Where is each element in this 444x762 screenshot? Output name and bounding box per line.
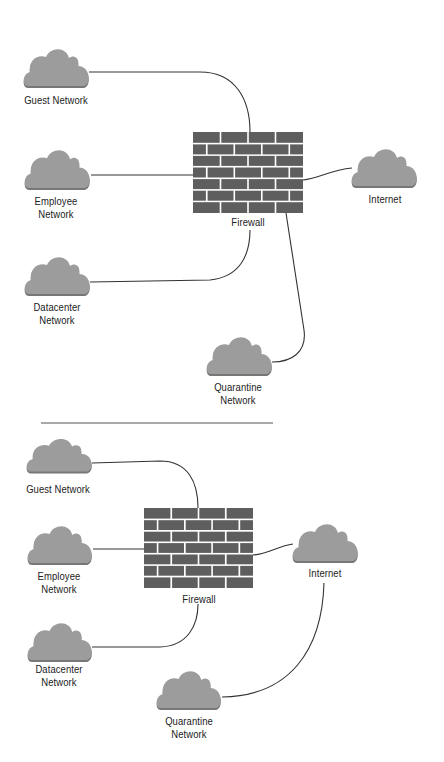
internet-network-label: Internet — [369, 193, 402, 206]
connection-internet-to-quarantine — [222, 583, 324, 697]
guest-network-label: Guest Network — [26, 483, 90, 496]
cloud-icon-datacenter — [28, 623, 92, 662]
quarantine-network-label: QuarantineNetwork — [165, 715, 213, 741]
connection-firewall-to-internet — [253, 544, 293, 555]
label-line: Datacenter — [33, 301, 80, 314]
label-line: Internet — [309, 567, 342, 580]
cloud-icon-quarantine — [157, 671, 221, 710]
firewall-label: Firewall — [231, 216, 264, 229]
quarantine-network-label: QuarantineNetwork — [214, 381, 262, 407]
label-line: Network — [35, 208, 78, 221]
cloud-icon-employee — [25, 150, 90, 190]
cloud-icon-employee — [28, 526, 92, 565]
connection-datacenter-to-firewall — [92, 604, 198, 647]
firewall-icon — [193, 132, 303, 213]
connection-firewall-to-quarantine — [272, 213, 304, 362]
label-line: Datacenter — [35, 663, 82, 676]
label-line: Guest Network — [26, 483, 90, 496]
connection-firewall-to-internet — [303, 168, 352, 180]
cloud-icon-quarantine — [207, 337, 272, 376]
internet-network-label: Internet — [309, 567, 342, 580]
guest-network-label: Guest Network — [24, 94, 88, 107]
cloud-icon-datacenter — [25, 257, 90, 296]
label-line: Quarantine — [214, 381, 262, 394]
label-line: Network — [35, 676, 82, 689]
cloud-icon-internet — [352, 149, 417, 188]
label-line: Network — [165, 728, 213, 741]
datacenter-network-label: DatacenterNetwork — [33, 301, 80, 327]
cloud-icon-internet — [293, 524, 358, 563]
label-line: Network — [33, 314, 80, 327]
connection-guest-to-firewall — [89, 72, 250, 132]
datacenter-network-label: DatacenterNetwork — [35, 663, 82, 689]
connection-datacenter-to-firewall — [90, 230, 250, 282]
cloud-icon-guest — [27, 439, 92, 474]
label-line: Guest Network — [24, 94, 88, 107]
label-line: Employee — [38, 570, 81, 583]
label-line: Quarantine — [165, 715, 213, 728]
employee-network-label: EmployeeNetwork — [38, 570, 81, 596]
label-line: Employee — [35, 195, 78, 208]
label-line: Internet — [369, 193, 402, 206]
firewall-label: Firewall — [182, 593, 215, 606]
label-line: Network — [38, 583, 81, 596]
employee-network-label: EmployeeNetwork — [35, 195, 78, 221]
connection-guest-to-firewall — [92, 461, 198, 508]
cloud-icon-guest — [24, 49, 89, 88]
label-line: Network — [214, 394, 262, 407]
firewall-icon — [144, 508, 253, 588]
